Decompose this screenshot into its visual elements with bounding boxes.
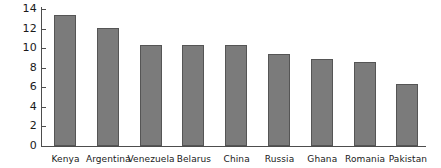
bar[interactable] xyxy=(354,62,376,146)
bar[interactable] xyxy=(311,59,333,146)
bars-layer: KenyaArgentinaVenezuelaBelarusChinaRussi… xyxy=(0,0,441,168)
bar[interactable] xyxy=(268,54,290,146)
bar[interactable] xyxy=(182,45,204,146)
bar[interactable] xyxy=(225,45,247,146)
x-axis-category-label: Pakistan xyxy=(380,154,435,164)
bar[interactable] xyxy=(54,15,76,146)
bar[interactable] xyxy=(140,45,162,146)
bar[interactable] xyxy=(97,28,119,146)
bar[interactable] xyxy=(396,84,418,146)
bar-chart: 02468101214 KenyaArgentinaVenezuelaBelar… xyxy=(0,0,441,168)
